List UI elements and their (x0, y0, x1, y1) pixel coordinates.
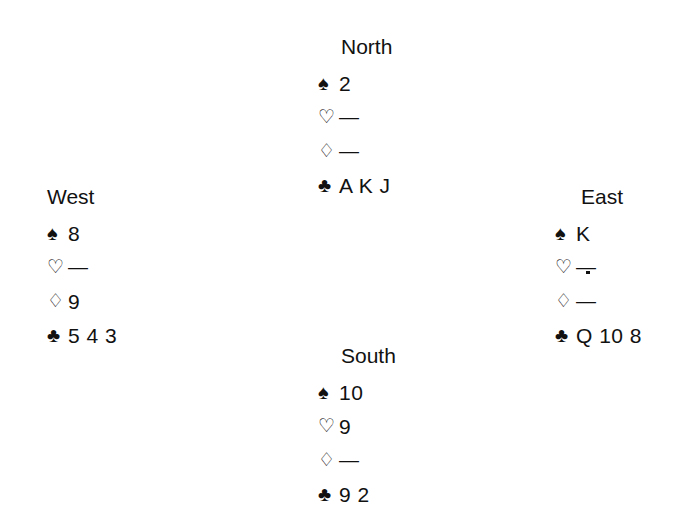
hand-north: North ♠ 2 ♡ — ♢ — ♣ A K J (318, 36, 392, 202)
east-diamond-cards: — (576, 291, 597, 312)
club-icon: ♣ (555, 325, 576, 345)
heart-icon: ♡ (318, 416, 339, 436)
north-spade-row: ♠ 2 (318, 66, 392, 100)
hand-label-south: South (318, 345, 396, 366)
south-spade-row: ♠ 10 (318, 375, 396, 409)
diamond-icon: ♢ (47, 291, 68, 311)
heart-icon: ♡ (47, 257, 68, 277)
hand-label-north: North (318, 36, 392, 57)
spade-icon: ♠ (318, 382, 339, 402)
club-icon: ♣ (318, 484, 339, 504)
spade-icon: ♠ (47, 223, 68, 243)
hand-label-east: East (555, 186, 642, 207)
east-heart-cards: — (576, 257, 597, 278)
hand-west: West ♠ 8 ♡ — ♢ 9 ♣ 5 4 3 (47, 186, 117, 352)
club-icon: ♣ (318, 175, 339, 195)
south-diamond-cards: — (339, 450, 360, 471)
south-spade-cards: 10 (339, 382, 363, 403)
west-spade-row: ♠ 8 (47, 216, 117, 250)
diamond-icon: ♢ (318, 450, 339, 470)
north-club-cards: A K J (339, 175, 391, 196)
east-spade-cards: K (576, 223, 591, 244)
east-heart-row: ♡ — (555, 250, 642, 284)
hand-east: East ♠ K ♡ — ♢ — ♣ Q 10 8 (555, 186, 642, 352)
north-heart-cards: — (339, 107, 360, 128)
bridge-hand-diagram: North ♠ 2 ♡ — ♢ — ♣ A K J West ♠ 8 ♡ — ♢ (0, 0, 697, 513)
hand-label-west: West (47, 186, 117, 207)
east-club-row: ♣ Q 10 8 (555, 318, 642, 352)
west-heart-cards: — (68, 257, 89, 278)
north-spade-cards: 2 (339, 73, 351, 94)
club-icon: ♣ (47, 325, 68, 345)
north-diamond-row: ♢ — (318, 134, 392, 168)
south-heart-cards: 9 (339, 416, 351, 437)
diamond-icon: ♢ (555, 291, 576, 311)
heart-icon: ♡ (318, 107, 339, 127)
west-club-row: ♣ 5 4 3 (47, 318, 117, 352)
south-club-cards: 9 2 (339, 484, 370, 505)
west-heart-row: ♡ — (47, 250, 117, 284)
east-club-cards: Q 10 8 (576, 325, 642, 346)
heart-icon: ♡ (555, 257, 576, 277)
diamond-icon: ♢ (318, 141, 339, 161)
south-heart-row: ♡ 9 (318, 409, 396, 443)
west-spade-cards: 8 (68, 223, 80, 244)
north-club-row: ♣ A K J (318, 168, 392, 202)
south-diamond-row: ♢ — (318, 443, 396, 477)
south-club-row: ♣ 9 2 (318, 477, 396, 511)
north-heart-row: ♡ — (318, 100, 392, 134)
north-diamond-cards: — (339, 141, 360, 162)
hand-south: South ♠ 10 ♡ 9 ♢ — ♣ 9 2 (318, 345, 396, 511)
west-diamond-cards: 9 (68, 291, 80, 312)
west-diamond-row: ♢ 9 (47, 284, 117, 318)
spade-icon: ♠ (318, 73, 339, 93)
west-club-cards: 5 4 3 (68, 325, 117, 346)
scan-artifact (586, 271, 590, 274)
east-spade-row: ♠ K (555, 216, 642, 250)
east-diamond-row: ♢ — (555, 284, 642, 318)
spade-icon: ♠ (555, 223, 576, 243)
